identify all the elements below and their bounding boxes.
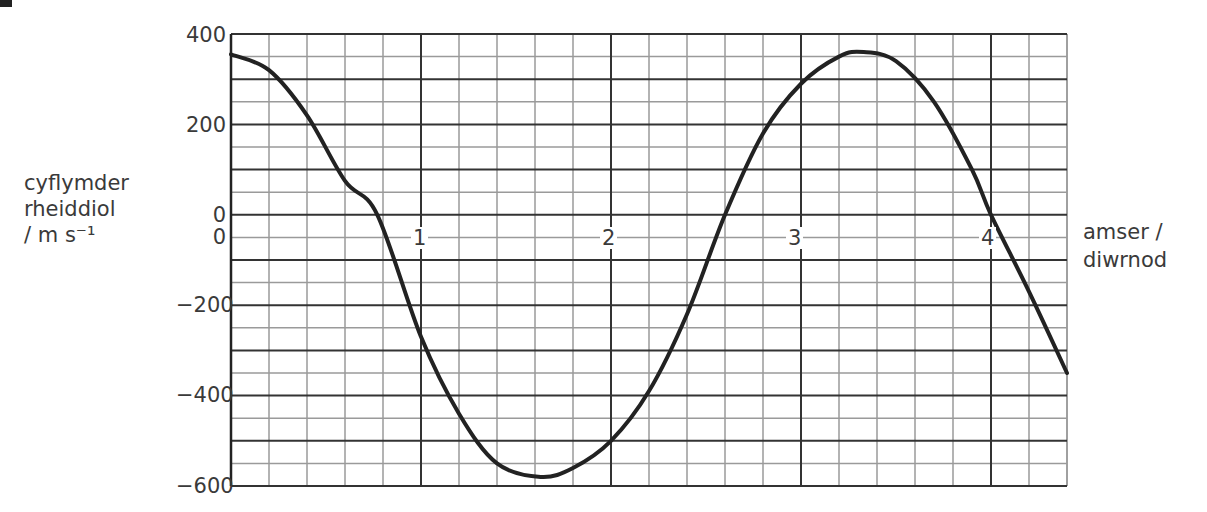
x-tick-4: 4 xyxy=(979,227,996,249)
y-tick-0: 0 xyxy=(176,204,226,226)
chart-plot-area xyxy=(0,0,1207,512)
x-tick-0: 0 xyxy=(176,226,226,248)
y-tick-neg400: −400 xyxy=(176,384,226,406)
y-tick-200: 200 xyxy=(176,114,226,136)
x-tick-1: 1 xyxy=(411,227,428,249)
x-tick-3: 3 xyxy=(786,227,803,249)
y-tick-neg600: −600 xyxy=(176,475,226,497)
x-tick-2: 2 xyxy=(600,227,617,249)
y-tick-neg200: −200 xyxy=(176,294,226,316)
y-tick-400: 400 xyxy=(176,24,226,46)
